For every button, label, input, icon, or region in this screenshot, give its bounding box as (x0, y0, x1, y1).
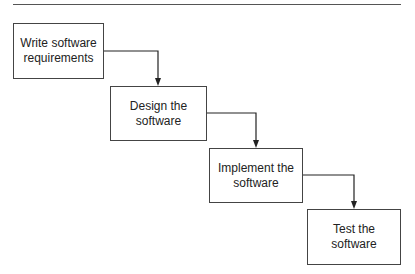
step-label-line1: Implement the (218, 161, 294, 176)
arrow-implement-to-test (302, 175, 357, 209)
step-label-line2: software (218, 176, 294, 191)
step-label-line1: Test the (331, 222, 376, 237)
step-write-requirements: Write software requirements (13, 23, 104, 79)
step-label-line2: requirements (20, 51, 96, 66)
step-label-line1: Write software (20, 36, 96, 51)
step-label-line2: software (130, 114, 187, 129)
step-label-line2: software (331, 237, 376, 252)
step-test: Test the software (307, 209, 401, 265)
arrow-write-to-design (103, 51, 161, 86)
step-design: Design the software (110, 86, 207, 141)
arrow-design-to-implement (206, 113, 259, 148)
step-implement: Implement the software (209, 148, 303, 203)
step-label-line1: Design the (130, 99, 187, 114)
